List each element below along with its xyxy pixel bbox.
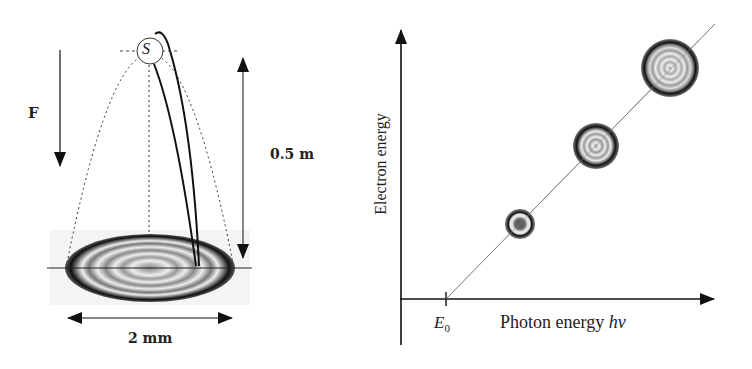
width-label: 2 mm — [128, 330, 172, 346]
energy-relation-line-overlay — [505, 39, 700, 239]
threshold-symbol: E — [434, 313, 444, 332]
x-axis-symbol: hν — [609, 312, 626, 332]
threshold-subscript: 0 — [444, 322, 450, 334]
x-axis-label: Photon energy hν — [500, 312, 626, 333]
right-panel — [400, 24, 715, 345]
x-axis-label-text: Photon energy — [500, 312, 609, 332]
force-label: F — [28, 104, 39, 122]
left-panel — [47, 32, 252, 318]
threshold-label: E0 — [434, 313, 450, 334]
source-circle — [137, 38, 163, 64]
y-axis-label: Electron energy — [372, 99, 390, 229]
source-label: S — [142, 40, 150, 58]
height-label: 0.5 m — [270, 146, 314, 162]
spot-high-energy — [641, 39, 699, 97]
